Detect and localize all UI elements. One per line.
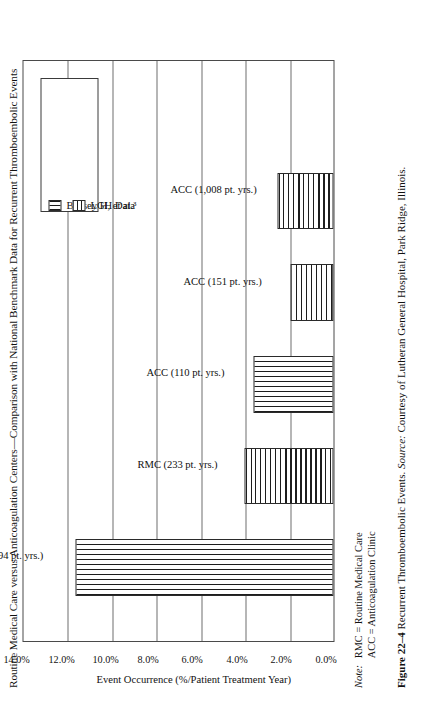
axis-tick-label: 2.0%	[270, 654, 291, 665]
legend-swatch-bussey-icon	[48, 200, 61, 211]
axis-tick-label: 8.0%	[137, 654, 158, 665]
note-line-acc: ACC = Anticoagulation Clinic	[365, 532, 376, 659]
figure-caption-text: Recurrent Thromboembolic Events.	[394, 472, 406, 630]
note-label: Note:	[352, 665, 363, 688]
axis-tick-label: 0.0%	[315, 654, 336, 665]
figure-source-label: Source:	[394, 435, 406, 469]
legend-entry: LGH Data	[72, 200, 134, 211]
bar-category-label: ACC (1,008 pt. yrs.)	[170, 184, 256, 195]
bar-3	[253, 356, 333, 413]
figure-source-text: Courtesy of Lutheran General Hospital, P…	[394, 167, 406, 433]
bar-4	[290, 264, 333, 321]
bar-category-label: RMC (94 pt. yrs.)	[0, 551, 42, 562]
figure-number: Figure 22–4	[394, 632, 406, 688]
axis-tick-label: 4.0%	[226, 654, 247, 665]
rotated-figure-canvas: Routine Medical Care versus Anticoagulat…	[0, 0, 429, 704]
axis-tick-label: 6.0%	[181, 654, 202, 665]
figure-caption: Figure 22–4 Recurrent Thromboembolic Eve…	[394, 18, 407, 688]
axis-tick-label: 12.0%	[48, 654, 74, 665]
figure-page: Routine Medical Care versus Anticoagulat…	[0, 0, 429, 704]
bar-category-label: ACC (110 pt. yrs.)	[146, 367, 224, 378]
bar-1	[75, 539, 334, 596]
bar-category-label: ACC (151 pt. yrs.)	[183, 276, 261, 287]
chart-title: Routine Medical Care versus Anticoagulat…	[6, 88, 19, 688]
axis-tick-label: 14.0%	[3, 654, 29, 665]
axis-title: Event Occurrence (%/Patient Treatment Ye…	[96, 674, 290, 685]
bar-2	[244, 448, 333, 505]
bar-category-label: RMC (233 pt. yrs.)	[137, 459, 217, 470]
legend-swatch-lgh-icon	[72, 200, 85, 211]
note-line-rmc: RMC = Routine Medical Care	[352, 532, 363, 658]
figure-note: Note: RMC = Routine Medical Care ACC = A…	[352, 532, 377, 689]
chart-legend	[40, 78, 98, 212]
bar-5	[277, 173, 333, 230]
axis-tick-label: 10.0%	[92, 654, 118, 665]
legend-entry-label: LGH Data	[90, 200, 134, 211]
